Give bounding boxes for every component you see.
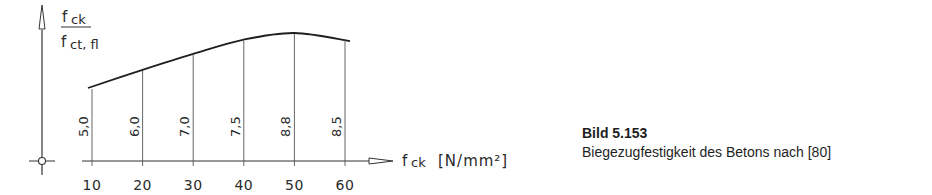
value-label: 8,5 (329, 116, 344, 137)
x-tick-label: 60 (336, 177, 355, 193)
series-curve (88, 33, 350, 88)
y-label-denominator-sub: ct, fl (70, 37, 99, 52)
value-label: 5,0 (76, 116, 91, 137)
x-tick-label: 10 (83, 177, 102, 193)
y-axis-arrowhead (39, 5, 45, 29)
figure-title: Biegezugfestigkeit des Betons nach [80] (582, 143, 831, 162)
chart-marks: 105,0206,0307,0407,5508,8608,5 (76, 33, 354, 193)
value-label: 7,5 (228, 116, 243, 137)
x-label-unit: [N/mm²] (438, 152, 508, 170)
x-label-symbol: f (402, 152, 408, 170)
value-label: 6,0 (127, 116, 142, 137)
x-tick-label: 40 (234, 177, 253, 193)
chart: f ck f ct, fl f ck [N/mm²] 105,0206,0307… (0, 0, 560, 195)
x-axis-arrowhead (369, 158, 393, 164)
value-label: 8,8 (278, 116, 293, 137)
origin-circle (39, 158, 46, 165)
figure-caption: Bild 5.153 Biegezugfestigkeit des Betons… (582, 124, 831, 162)
x-tick-label: 20 (133, 177, 152, 193)
x-label-sub: ck (411, 155, 426, 170)
x-tick-label: 50 (285, 177, 304, 193)
figure-number: Bild 5.153 (582, 124, 831, 143)
y-label-denominator-symbol: f (61, 33, 67, 51)
value-label: 7,0 (177, 116, 192, 137)
x-tick-label: 30 (184, 177, 203, 193)
y-label-numerator-sub: ck (71, 12, 86, 27)
y-label-numerator-symbol: f (62, 8, 68, 26)
